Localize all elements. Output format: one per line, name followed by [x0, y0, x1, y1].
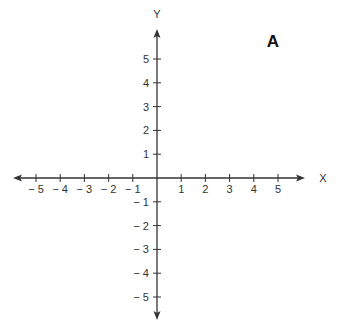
x-axis-label: X	[319, 172, 327, 184]
y-tick-label: − 5	[133, 291, 149, 303]
x-tick-label: − 3	[77, 183, 93, 195]
y-axis-label: Y	[153, 8, 161, 20]
y-tick-label: 3	[143, 101, 149, 113]
x-tick-label: 1	[178, 183, 184, 195]
x-tick-label: 4	[251, 183, 257, 195]
y-tick-label: − 2	[133, 220, 149, 232]
x-tick-label: − 1	[125, 183, 141, 195]
x-tick-label: − 5	[28, 183, 44, 195]
x-tick-label: 3	[227, 183, 233, 195]
y-tick-label: 5	[143, 53, 149, 65]
x-axis-ticks: − 5− 4− 3− 2− 112345	[28, 174, 281, 195]
x-tick-label: 2	[202, 183, 208, 195]
y-tick-label: 1	[143, 148, 149, 160]
coordinate-plane: − 5− 4− 3− 2− 112345 54321− 1− 2− 3− 4− …	[0, 0, 340, 335]
y-tick-label: 4	[143, 77, 149, 89]
x-tick-label: 5	[275, 183, 281, 195]
y-tick-label: − 4	[133, 267, 149, 279]
y-tick-label: − 3	[133, 243, 149, 255]
y-tick-label: 2	[143, 124, 149, 136]
panel-label: A	[267, 32, 279, 51]
x-tick-label: − 4	[52, 183, 68, 195]
axes	[13, 29, 305, 320]
y-tick-label: − 1	[133, 196, 149, 208]
x-tick-label: − 2	[101, 183, 117, 195]
